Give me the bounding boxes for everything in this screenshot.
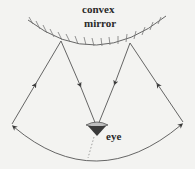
ray-right-incoming-lower [158, 85, 183, 122]
mirror-label-line2: mirror [84, 18, 116, 29]
light-rays [12, 41, 183, 125]
mirror-label-line1: convex [82, 4, 114, 15]
convex-mirror-diagram: convex mirror eye [0, 0, 195, 169]
ray-left-reflected-upper [61, 41, 80, 85]
eye-icon [86, 122, 108, 136]
eye-label: eye [106, 131, 121, 142]
eye-sightline-dotted [88, 137, 94, 158]
ray-left-incoming-upper [35, 41, 61, 85]
ray-left-incoming-lower [12, 85, 35, 124]
ray-left-reflected-lower [80, 85, 96, 125]
ray-right-reflected-upper [115, 43, 130, 83]
ray-right-incoming-upper [130, 43, 158, 85]
ray-right-reflected-lower [98, 83, 115, 125]
